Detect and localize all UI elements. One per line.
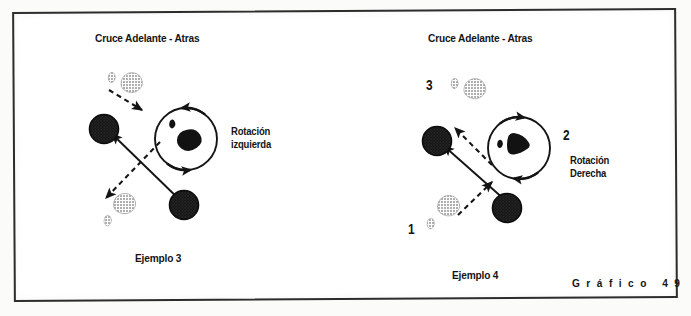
left-inner-heel (169, 120, 175, 129)
right-inner-heel (497, 140, 503, 148)
right-dashed-arrow-bottom (458, 182, 492, 215)
left-panel-title: Cruce Adelante - Atras (95, 32, 199, 44)
right-rotation-arrow-bottom (514, 173, 538, 179)
left-panel-artwork (90, 72, 218, 226)
right-dark-circle-upper (423, 127, 452, 156)
left-dark-circle-upper (90, 115, 119, 144)
figure-content: Cruce Adelante - Atras Rotación izquierd… (0, 0, 691, 316)
right-dark-circle-lower (493, 194, 522, 223)
left-rotation-arrow-top (182, 108, 205, 115)
gray-footprint-upper-left (108, 72, 142, 92)
left-dark-circle-lower (170, 191, 199, 220)
figure-reference-label: G r á f i c o 4 9 (572, 277, 682, 289)
gray-footprint-upper-right (451, 78, 486, 99)
gray-footprint-lower-left (104, 193, 136, 225)
figure-page: Cruce Adelante - Atras Rotación izquierd… (0, 0, 691, 316)
left-dashed-arrow-top (109, 90, 142, 110)
left-rotation-label-line1: Rotación (231, 126, 270, 138)
right-panel-title: Cruce Adelante - Atras (428, 32, 532, 44)
left-rotation-arrow-bottom (167, 164, 190, 171)
left-inner-toe (177, 129, 202, 151)
right-panel-artwork (423, 78, 551, 229)
right-rotation-label-line2: Derecha (570, 168, 606, 180)
left-rotation-label-line2: izquierda (231, 139, 271, 151)
left-dashed-arrow-bottom (106, 142, 160, 198)
right-step-number-3: 3 (426, 77, 432, 93)
gray-footprint-lower-right (427, 195, 460, 228)
right-rotation-arrow-top (500, 117, 524, 123)
left-panel-caption: Ejemplo 3 (135, 252, 181, 264)
right-rotation-label-line1: Rotación (570, 155, 609, 167)
left-solid-arrow (112, 134, 183, 203)
right-step-number-2: 2 (563, 127, 569, 143)
right-solid-arrow (444, 146, 505, 200)
right-panel-caption: Ejemplo 4 (452, 269, 498, 281)
right-step-number-1: 1 (408, 221, 414, 237)
right-inner-toe (507, 133, 530, 155)
